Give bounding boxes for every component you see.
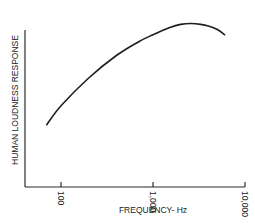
x-axis-label: FREQUENCY- Hz — [119, 205, 187, 215]
chart: 1001,00010,000 HUMAN LOUDNESS RESPONSE F… — [0, 0, 255, 224]
loudness-curve — [47, 24, 225, 125]
x-tick-label: 10,000 — [240, 191, 250, 217]
y-axis-label: HUMAN LOUDNESS RESPONSE — [10, 35, 20, 165]
x-tick-label: 100 — [56, 191, 66, 205]
